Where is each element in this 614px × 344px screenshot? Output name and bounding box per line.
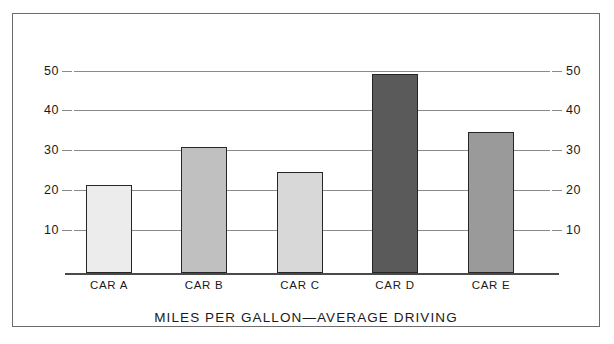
tick-stub-right-10 [552,230,562,231]
y-axis-label-right-30: 30 [566,144,581,157]
gridline-40 [74,110,550,111]
tick-stub-right-20 [552,190,562,191]
tick-stub-right-40 [552,110,562,111]
x-axis-line [65,273,559,275]
plot-area: 50 50 40 40 30 30 20 20 10 10 CAR A CAR … [74,64,550,273]
y-axis-label-left-40: 40 [44,104,59,117]
x-axis-label-car-b: CAR B [171,279,237,291]
y-axis-label-right-40: 40 [566,104,581,117]
x-axis-label-car-c: CAR C [267,279,333,291]
tick-stub-left-40 [62,110,72,111]
bar-car-b[interactable] [181,147,227,273]
tick-stub-right-30 [552,150,562,151]
y-axis-label-left-30: 30 [44,144,59,157]
bar-car-e[interactable] [468,132,514,273]
bar-car-c[interactable] [277,172,323,273]
chart-title: MILES PER GALLON—AVERAGE DRIVING [13,310,599,325]
tick-stub-right-50 [552,71,562,72]
x-axis-label-car-e: CAR E [458,279,524,291]
y-axis-label-right-50: 50 [566,65,581,78]
y-axis-label-right-20: 20 [566,184,581,197]
tick-stub-left-30 [62,150,72,151]
chart-frame: 50 50 40 40 30 30 20 20 10 10 CAR A CAR … [12,13,600,327]
tick-stub-left-10 [62,230,72,231]
y-axis-label-right-10: 10 [566,224,581,237]
x-axis-label-car-a: CAR A [76,279,142,291]
y-axis-label-left-20: 20 [44,184,59,197]
bar-car-a[interactable] [86,185,132,273]
x-axis-label-car-d: CAR D [362,279,428,291]
gridline-50 [74,71,550,72]
y-axis-label-left-10: 10 [44,224,59,237]
y-axis-label-left-50: 50 [44,65,59,78]
bar-car-d[interactable] [372,74,418,273]
tick-stub-left-20 [62,190,72,191]
tick-stub-left-50 [62,71,72,72]
